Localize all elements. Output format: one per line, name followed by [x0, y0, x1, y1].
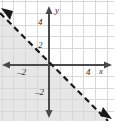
- y-tick-label-2: 2: [38, 41, 43, 50]
- x-tick-label-4: 4: [86, 68, 91, 77]
- x-tick-label-minus-2: –2: [17, 68, 26, 77]
- y-tick-label-minus-2: –2: [35, 88, 44, 97]
- coordinate-graph: y x 4 2 –2 –2 4: [0, 0, 114, 121]
- graph-canvas: [0, 0, 114, 121]
- x-axis-label: x: [99, 67, 103, 76]
- y-axis-label: y: [55, 6, 59, 15]
- y-tick-label-4: 4: [38, 18, 43, 27]
